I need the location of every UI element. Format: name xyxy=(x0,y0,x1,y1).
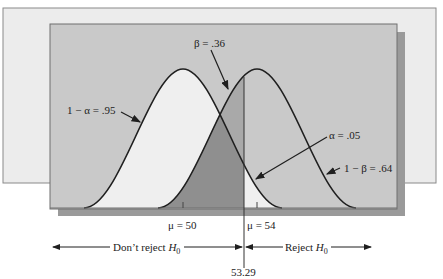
reject-label: Reject H0 xyxy=(285,241,328,256)
dont-reject-label: Don’t reject H0 xyxy=(113,241,180,256)
beta-label: β = .36 xyxy=(194,37,226,49)
null-mean-label: μ = 50 xyxy=(168,219,197,231)
hypothesis-test-diagram: β = .36 1 − α = .95 α = .05 1 − β = .64 … xyxy=(0,0,443,279)
alpha-label: α = .05 xyxy=(329,129,361,141)
one-minus-alpha-label: 1 − α = .95 xyxy=(67,104,116,116)
critical-value-label: 53.29 xyxy=(231,266,256,278)
power-label: 1 − β = .64 xyxy=(344,162,393,174)
alt-mean-label: μ = 54 xyxy=(247,219,276,231)
